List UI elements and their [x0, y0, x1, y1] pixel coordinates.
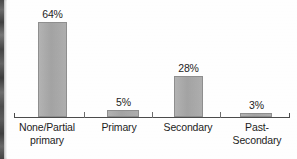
- x-axis-category-label-4: Past- Secondary: [222, 121, 292, 146]
- x-axis-category-label-1: None/Partial primary: [10, 121, 84, 146]
- bar-value-label-3: 28%: [164, 62, 213, 74]
- bar-primary: [107, 110, 139, 117]
- bar-chart-plot-area: 64% 5% 28% 3% None/Partial primary Prima…: [0, 0, 297, 159]
- bar-secondary: [174, 76, 203, 117]
- bar-none-partial-primary: [38, 22, 67, 117]
- x-axis-category-label-3: Secondary: [155, 121, 221, 134]
- bar-value-label-1: 64%: [28, 8, 77, 20]
- x-axis-category-label-2: Primary: [88, 121, 150, 134]
- bar-value-label-4: 3%: [232, 99, 281, 111]
- x-axis-tick-2: [152, 112, 153, 118]
- chart-screenshot: 64% 5% 28% 3% None/Partial primary Prima…: [0, 0, 297, 159]
- x-axis-tick-3: [220, 112, 221, 118]
- x-axis-right-cap: [289, 113, 290, 118]
- bar-value-label-2: 5%: [99, 96, 148, 108]
- x-axis-left-cap: [14, 113, 15, 118]
- x-axis-tick-1: [84, 112, 85, 118]
